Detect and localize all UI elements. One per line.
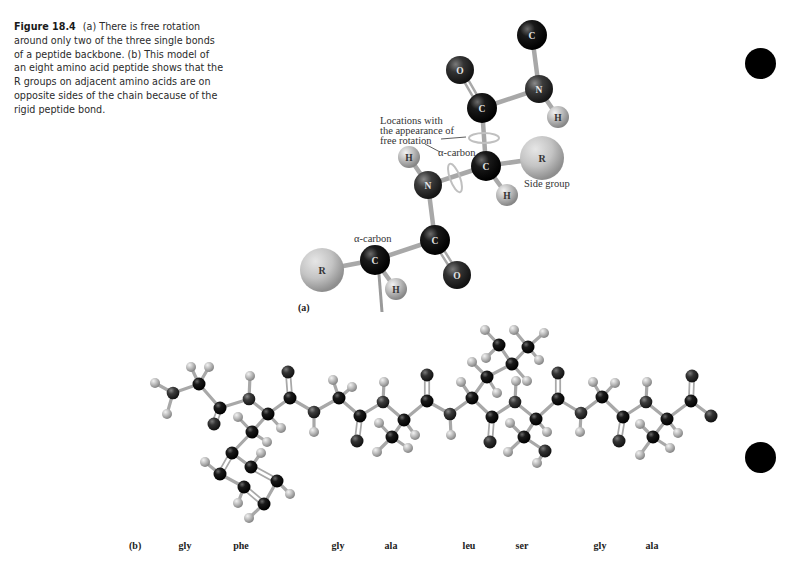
oxygen-atom [421,369,434,382]
carbon-atom [238,481,251,494]
atom-symbol: R [318,265,326,276]
oxygen-atom: O [446,56,474,84]
atom-symbol: C [483,162,490,172]
hydrogen-atom [635,450,645,460]
nitrogen-atom [308,406,321,419]
hydrogen-atom [532,458,542,468]
nitrogen-atom [640,396,653,409]
carbon-atom [421,395,434,408]
carbon-atom [193,378,206,391]
carbon-atom [506,358,519,371]
hydrogen-atom [509,325,519,335]
oxygen-atom [351,435,364,448]
atom-symbol: R [538,153,546,164]
residue-label-leu: leu [463,540,476,551]
atom-symbol: H [554,113,562,123]
atom-symbol: O [456,66,463,76]
carbon-atom [481,371,494,384]
oxygen-atom [282,366,295,379]
residue-label-gly: gly [594,540,607,551]
hydrogen-atom [665,443,675,453]
carbon-atom [466,392,479,405]
nitrogen-atom [167,387,180,400]
hydrogen-atom [162,409,172,419]
annotation-arrow-icon [441,137,466,139]
hydrogen-atom [233,412,243,422]
carbon-atom [271,475,284,488]
nitrogen-atom [377,396,390,409]
side-group-label: Side group [524,178,570,189]
hydrogen-atom [539,328,549,338]
hydrogen-atom [262,437,272,447]
atom-symbol: N [425,181,432,191]
residue-label-gly: gly [179,540,192,551]
margin-dot-top [745,48,776,79]
hydrogen-atom [446,430,456,440]
carbon-atom [493,339,506,352]
oxygen-atom [539,445,552,458]
carbon-atom: C [467,93,497,123]
hydrogen-atom [511,376,521,386]
hydrogen-atom [542,427,552,437]
residue-label-ala: ala [385,540,398,551]
hydrogen-atom [150,378,160,388]
carbon-atom [685,395,698,408]
hydrogen-atom: H [496,184,518,206]
hydrogen-atom: H [385,278,407,300]
panel-b-atoms [150,325,718,523]
carbon-atom [661,413,674,426]
atom-symbol: C [372,256,379,266]
hydrogen-atom [503,447,513,457]
hydrogen-atom [233,498,243,508]
hydrogen-atom [410,430,420,440]
nitrogen-atom [243,393,256,406]
panel-b-octapeptide-model: (b) glypheglyalaleuserglyala [129,325,718,552]
hydrogen-atom [505,418,515,428]
hydrogen-atom [245,371,255,381]
carbon-atom [214,402,227,415]
hydrogen-atom [374,418,384,428]
panel-a-dipeptide-model: CONHCCRHNHCOCRH Locations with the appea… [298,20,570,314]
residue-labels: glypheglyalaleuserglyala [179,540,659,551]
rotation-annotation-line3: free rotation [380,135,432,146]
oxygen-atom [613,435,626,448]
nitrogen-atom: N [414,171,442,199]
carbon-atom [246,426,259,439]
hydrogen-atom [186,362,196,372]
r-group-atom: R [300,248,344,292]
carbon-atom [518,431,531,444]
carbon-atom [245,461,258,474]
oxygen-atom [208,418,221,431]
hydrogen-atom [256,448,266,458]
carbon-atom [354,410,367,423]
carbon-atom: C [420,225,450,255]
figure-canvas: CONHCCRHNHCOCRH Locations with the appea… [0,0,790,575]
nitrogen-atom [444,408,457,421]
residue-label-ala: ala [646,540,659,551]
hydrogen-atom [673,428,683,438]
hydrogen-atom [635,419,645,429]
oxygen-atom [705,410,718,423]
carbon-atom [333,392,346,405]
hydrogen-atom [481,353,491,363]
carbon-atom [226,447,239,460]
oxygen-atom: O [443,261,471,289]
hydrogen-atom: H [398,146,420,168]
hydrogen-atom [480,325,490,335]
carbon-atom [552,393,565,406]
hydrogen-atom [285,489,295,499]
carbon-atom [617,411,630,424]
atom-symbol: C [432,236,439,246]
hydrogen-atom [347,382,357,392]
atom-symbol: N [536,85,543,95]
hydrogen-atom [610,378,620,388]
residue-label-gly: gly [332,540,345,551]
hydrogen-atom [372,447,382,457]
carbon-atom [214,468,227,481]
atom-symbol: H [392,285,400,295]
hydrogen-atom [588,377,598,387]
carbon-atom [522,341,535,354]
atom-symbol: C [479,104,486,114]
alpha-carbon-label-upper: α-carbon [438,147,476,158]
hydrogen-atom: H [547,106,569,128]
